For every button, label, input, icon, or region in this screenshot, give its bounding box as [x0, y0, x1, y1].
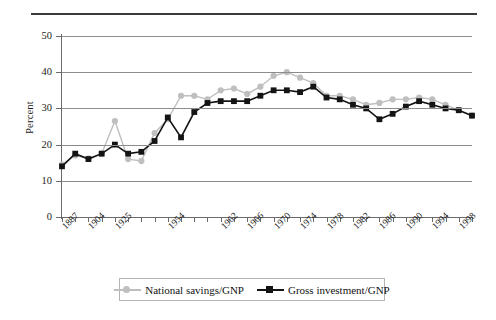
x-axis-tick	[141, 218, 142, 222]
data-point-square	[59, 163, 65, 169]
data-point-square	[297, 89, 303, 95]
square-marker-icon	[266, 286, 273, 293]
data-point-square	[377, 116, 383, 122]
data-point-circle	[218, 87, 224, 93]
data-point-square	[165, 115, 171, 121]
chart-legend: National savings/GNP Gross investment/GN…	[119, 278, 385, 301]
gridline	[62, 36, 472, 37]
y-axis-tick-label: 0	[28, 211, 52, 222]
y-axis-tick	[56, 108, 61, 109]
data-point-square	[350, 102, 356, 108]
data-point-square	[429, 102, 435, 108]
chart-page: 01020304050 Percent National savings/GNP…	[0, 0, 496, 320]
y-axis-tick	[56, 181, 61, 182]
chart-container: 01020304050 Percent	[0, 0, 496, 320]
data-point-square	[257, 93, 263, 99]
data-point-circle	[429, 96, 435, 102]
legend-item-national-savings: National savings/GNP	[114, 284, 244, 296]
data-point-square	[178, 134, 184, 140]
data-point-circle	[138, 158, 144, 164]
data-point-square	[72, 151, 78, 157]
data-point-square	[416, 98, 422, 104]
y-axis-tick-label: 40	[28, 66, 52, 77]
y-axis-tick	[56, 72, 61, 73]
legend-label-gross-investment: Gross investment/GNP	[288, 284, 390, 296]
data-point-square	[271, 87, 277, 93]
x-axis-tick	[194, 218, 195, 222]
plot-area	[62, 36, 472, 217]
data-point-circle	[350, 96, 356, 102]
series-layer	[62, 36, 472, 217]
series-national-savings	[59, 69, 475, 168]
data-point-square	[99, 151, 105, 157]
data-point-circle	[178, 93, 184, 99]
data-point-square	[244, 98, 250, 104]
gridline	[62, 145, 472, 146]
data-point-square	[390, 111, 396, 117]
y-axis-tick	[56, 217, 61, 218]
x-axis-tick	[207, 218, 208, 222]
data-point-square	[205, 100, 211, 106]
data-point-circle	[257, 84, 263, 90]
y-axis-tick-label: 10	[28, 175, 52, 186]
series-gross-investment	[59, 84, 475, 169]
y-axis-tick-label: 50	[28, 30, 52, 41]
y-axis-title: Percent	[24, 83, 35, 153]
data-point-square	[125, 151, 131, 157]
gridline	[62, 72, 472, 73]
data-point-circle	[390, 96, 396, 102]
data-point-square	[138, 149, 144, 155]
data-point-square	[324, 95, 330, 101]
data-point-circle	[125, 156, 131, 162]
gridline	[62, 181, 472, 182]
data-point-circle	[376, 100, 382, 106]
data-point-square	[337, 96, 343, 102]
legend-line-icon-investment	[257, 285, 284, 294]
data-point-circle	[112, 118, 118, 124]
circle-marker-icon	[123, 286, 130, 293]
legend-label-national-savings: National savings/GNP	[145, 284, 244, 296]
data-point-square	[152, 138, 158, 144]
gridline	[62, 108, 472, 109]
data-point-square	[86, 156, 92, 162]
data-point-circle	[297, 75, 303, 81]
data-point-square	[469, 113, 475, 119]
x-axis-tick	[155, 218, 156, 222]
data-point-circle	[403, 96, 409, 102]
legend-item-gross-investment: Gross investment/GNP	[257, 284, 390, 296]
data-point-circle	[191, 93, 197, 99]
data-point-square	[284, 87, 290, 93]
data-point-square	[231, 98, 237, 104]
data-point-square	[191, 109, 197, 115]
data-point-circle	[151, 130, 157, 136]
y-axis-tick	[56, 36, 61, 37]
y-axis-tick	[56, 145, 61, 146]
data-point-circle	[231, 85, 237, 91]
data-point-square	[310, 84, 316, 90]
data-point-circle	[244, 91, 250, 97]
legend-line-icon-savings	[114, 285, 141, 294]
data-point-square	[218, 98, 224, 104]
data-point-circle	[271, 73, 277, 79]
